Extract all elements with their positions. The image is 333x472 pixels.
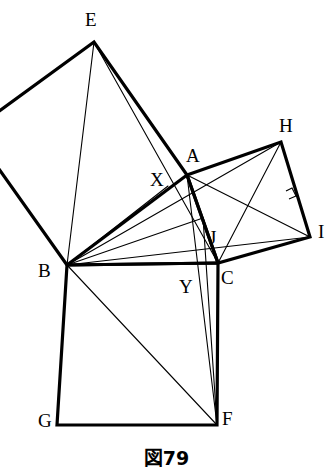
figure-container: E H A X I J B Y C G F 図79 <box>0 0 333 472</box>
segment-A-F <box>187 175 217 425</box>
vertex-label-Y: Y <box>179 277 193 296</box>
triangle-side-AB <box>67 175 187 265</box>
segment-B-F <box>67 265 217 425</box>
vertex-label-J: J <box>209 228 216 247</box>
vertex-label-C: C <box>221 268 234 287</box>
figure-caption: 図79 <box>0 443 333 470</box>
vertex-label-I: I <box>318 222 324 241</box>
auxiliary-lines-group <box>67 42 310 425</box>
segment-B-I <box>67 237 310 265</box>
segment-B-J <box>67 218 203 265</box>
square-on-AB-outline <box>0 42 187 265</box>
geometry-canvas <box>0 0 333 472</box>
square-outlines-group <box>0 42 310 425</box>
vertex-label-X: X <box>150 170 164 189</box>
vertex-label-H: H <box>279 116 293 135</box>
vertex-label-G: G <box>38 411 52 430</box>
segment-E-B <box>67 42 94 265</box>
triangle-side-BC <box>67 263 218 265</box>
vertex-label-F: F <box>222 409 233 428</box>
vertex-label-A: A <box>186 146 200 165</box>
vertex-label-E: E <box>85 10 97 29</box>
vertex-label-B: B <box>38 261 51 280</box>
